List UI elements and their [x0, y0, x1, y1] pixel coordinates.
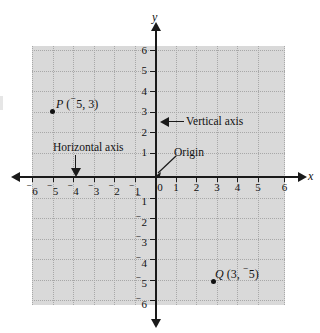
raised-minus-icon: ⁻ — [88, 181, 94, 193]
y-axis-tick — [150, 300, 155, 301]
x-tick-label-6: 6 — [275, 182, 295, 193]
y-axis-tick — [150, 239, 155, 240]
y-axis-tick — [150, 198, 155, 199]
vertical-axis-arrowhead-icon — [160, 117, 169, 127]
y-tick-label-1: 1 — [127, 147, 147, 158]
y-tick-label--5: ⁻5 — [127, 274, 147, 289]
x-axis-arrow-negative — [11, 172, 20, 182]
y-tick-label--6: ⁻6 — [127, 295, 147, 310]
y-tick-label--2: ⁻2 — [127, 213, 147, 228]
raised-minus-icon: ⁻ — [243, 264, 249, 276]
point-marker-P — [50, 109, 55, 114]
y-tick-label-6: 6 — [127, 45, 147, 56]
y-axis-tick — [150, 280, 155, 281]
y-tick-label-4: 4 — [127, 86, 147, 97]
x-tick-label-3: 3 — [207, 182, 227, 193]
x-tick-label--5: ⁻5 — [43, 182, 63, 197]
x-tick-label-1: 1 — [166, 182, 186, 193]
y-tick-label--1: ⁻1 — [127, 192, 147, 207]
horizontal-axis-annotation: Horizontal axis — [53, 141, 124, 153]
coordinate-plane-figure: y x ⁻6 ⁻5 ⁻4 ⁻3 ⁻2 ⁻1 0 1 2 3 4 5 6 — [0, 0, 320, 333]
x-tick-label--3: ⁻3 — [84, 182, 104, 197]
point-label-P: P (⁻5, 3) — [56, 94, 98, 110]
raised-minus-icon: ⁻ — [136, 212, 142, 224]
x-tick-label-4: 4 — [228, 182, 248, 193]
y-tick-label-3: 3 — [127, 106, 147, 117]
x-axis-arrow-positive — [298, 172, 307, 182]
y-tick-label--3: ⁻3 — [127, 233, 147, 248]
raised-minus-icon: ⁻ — [136, 253, 142, 265]
y-axis-tick — [150, 71, 155, 72]
x-tick-label--2: ⁻2 — [104, 182, 124, 197]
point-name-Q: Q — [215, 267, 224, 281]
page-edge-artifact — [0, 96, 3, 110]
y-axis-tick — [150, 50, 155, 51]
raised-minus-icon: ⁻ — [136, 232, 142, 244]
point-label-Q: Q (3, ⁻5) — [215, 264, 259, 280]
raised-minus-icon: ⁻ — [136, 273, 142, 285]
y-tick-label-2: 2 — [127, 127, 147, 138]
y-tick-label--4: ⁻4 — [127, 254, 147, 269]
y-tick-label-5: 5 — [127, 65, 147, 76]
y-axis-tick — [150, 91, 155, 92]
raised-minus-icon: ⁻ — [47, 181, 53, 193]
x-tick-label-5: 5 — [248, 182, 268, 193]
horizontal-axis-arrowhead-icon — [71, 168, 81, 177]
y-axis-tick — [150, 218, 155, 219]
raised-minus-icon: ⁻ — [136, 191, 142, 203]
y-axis-tick — [150, 112, 155, 113]
x-axis-label: x — [308, 170, 313, 182]
x-tick-label--6: ⁻6 — [22, 182, 42, 197]
y-axis-tick — [150, 132, 155, 133]
vertical-axis-annotation: Vertical axis — [186, 115, 243, 127]
x-tick-label-2: 2 — [187, 182, 207, 193]
y-axis-label: y — [152, 11, 157, 23]
y-axis-tick — [150, 259, 155, 260]
x-tick-label--4: ⁻4 — [63, 182, 83, 197]
origin-leader-line — [150, 150, 180, 180]
y-axis-arrow-negative — [151, 319, 161, 328]
raised-minus-icon: ⁻ — [136, 294, 142, 306]
